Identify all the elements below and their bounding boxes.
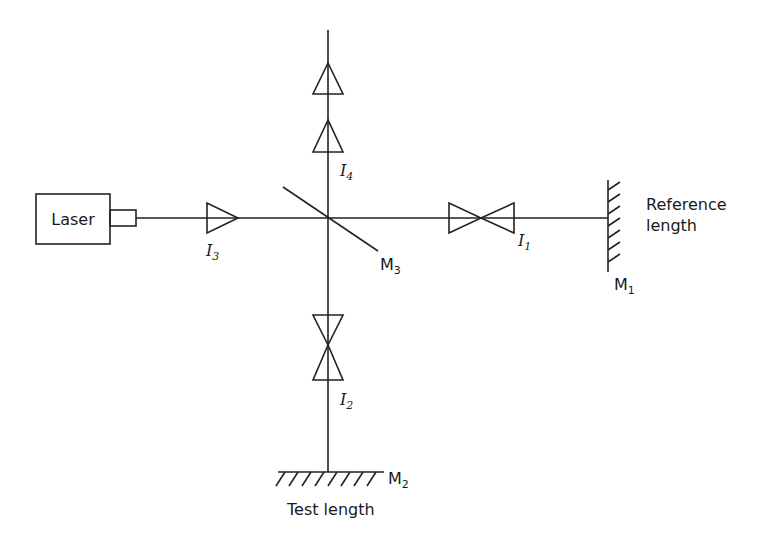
test-length-caption: Test length — [286, 500, 375, 519]
beam-splitter-m3: M3 — [283, 187, 401, 277]
test-mirror-m2: M2 Test length — [276, 469, 409, 519]
intensity-i1-arrows: I1 — [449, 203, 531, 253]
intensity-i2-arrows: I2 — [313, 315, 353, 412]
i3-label: I3 — [205, 241, 219, 263]
intensity-i4-arrows: I4 — [313, 63, 353, 183]
reference-length-caption-2: length — [646, 216, 697, 235]
i1-label: I1 — [517, 231, 531, 253]
laser-label: Laser — [51, 210, 95, 229]
m1-label: M1 — [614, 275, 635, 297]
reference-mirror-m1: M1 Reference length — [608, 180, 727, 297]
laser: Laser — [36, 194, 136, 244]
i4-label: I4 — [339, 161, 353, 183]
interferometer-diagram: Laser I3 I4 M3 I1 M1 Reference length — [0, 0, 763, 548]
reference-length-caption-1: Reference — [646, 195, 727, 214]
i2-label: I2 — [339, 390, 353, 412]
intensity-i3-arrow: I3 — [205, 203, 238, 263]
m3-label: M3 — [380, 255, 401, 277]
m2-label: M2 — [388, 469, 409, 491]
